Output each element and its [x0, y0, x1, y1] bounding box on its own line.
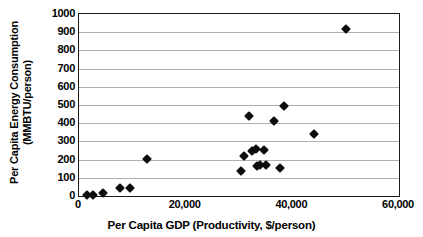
y-axis-tick-label: 700	[34, 62, 75, 73]
data-point	[275, 163, 285, 173]
plot-area	[78, 13, 400, 197]
x-axis-title: Per Capita GDP (Productivity, $/person)	[0, 219, 423, 232]
y-axis-tick-labels: 01002003004005006007008009001000	[34, 0, 75, 210]
y-axis-tick-label: 300	[34, 135, 75, 146]
gridline	[79, 87, 399, 88]
y-axis-tick-label: 800	[34, 44, 75, 55]
data-point	[115, 183, 125, 193]
data-point	[98, 188, 108, 198]
data-point	[142, 154, 152, 164]
y-axis-tick-label: 500	[34, 99, 75, 110]
data-point	[259, 145, 269, 155]
gridline	[79, 32, 399, 33]
y-axis-tick-label: 1000	[34, 8, 75, 19]
plot-inner	[79, 14, 399, 196]
data-point	[236, 166, 246, 176]
y-axis-tick-label: 600	[34, 80, 75, 91]
data-point	[269, 116, 279, 126]
y-axis-tick-label: 400	[34, 117, 75, 128]
gridline	[79, 50, 399, 51]
gridline	[79, 178, 399, 179]
gridline	[79, 69, 399, 70]
gridline	[79, 123, 399, 124]
x-axis-tick-label: 20,000	[169, 198, 201, 211]
y-axis-title-line2: (MMBTU/person)	[20, 21, 33, 184]
gridline	[79, 141, 399, 142]
data-point	[279, 101, 289, 111]
data-point	[261, 160, 271, 170]
y-axis-title-line1: Per Capita Energy Consumption	[8, 21, 21, 184]
x-axis-tick-labels: 020,00040,00060,000	[0, 198, 423, 214]
data-point	[309, 130, 319, 140]
x-axis-tick-label: 60,000	[382, 198, 414, 211]
x-axis-tick-label: 0	[75, 198, 81, 211]
y-axis-tick-label: 200	[34, 153, 75, 164]
y-axis-tick-label: 900	[34, 26, 75, 37]
data-point	[244, 111, 254, 121]
y-axis-tick-label: 100	[34, 171, 75, 182]
x-axis-tick-label: 40,000	[275, 198, 307, 211]
scatter-chart-figure: Per Capita Energy Consumption (MMBTU/per…	[0, 0, 423, 237]
gridline	[79, 105, 399, 106]
gridline	[79, 160, 399, 161]
data-point	[125, 183, 135, 193]
